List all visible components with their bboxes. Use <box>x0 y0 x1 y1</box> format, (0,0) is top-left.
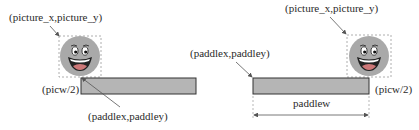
right-paddle-pointer-arrow <box>236 62 252 77</box>
right-picture-pointer-arrow <box>330 17 346 34</box>
right-figure: (picture_x,picture_y) (paddlex,paddley) … <box>190 2 413 120</box>
paddle-ball-diagram: (picture_x,picture_y) (picw/2) (paddlex,… <box>0 0 419 130</box>
right-picture-coord-label: (picture_x,picture_y) <box>285 2 378 15</box>
right-paddle-coord-label: (paddlex,paddley) <box>190 47 270 60</box>
right-smiley-ball-icon <box>349 36 389 76</box>
left-figure: (picture_x,picture_y) (picw/2) (paddlex,… <box>9 11 196 123</box>
left-paddle <box>81 78 196 94</box>
left-paddle-coord-label: (paddlex,paddley) <box>88 110 168 123</box>
left-picture-pointer-arrow <box>50 26 59 36</box>
right-paddle <box>253 78 369 94</box>
left-smiley-ball-icon <box>60 36 100 76</box>
left-halfwidth-label: (picw/2) <box>42 83 80 96</box>
right-paddle-width-label: paddlew <box>293 97 330 109</box>
left-picture-coord-label: (picture_x,picture_y) <box>9 11 102 24</box>
right-halfwidth-label: (picw/2) <box>375 83 413 96</box>
